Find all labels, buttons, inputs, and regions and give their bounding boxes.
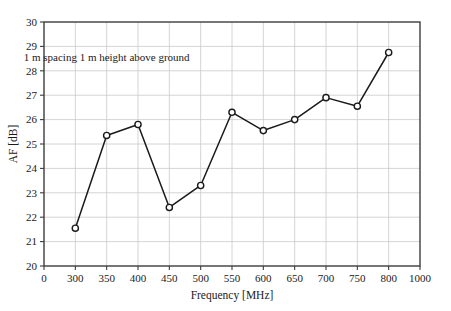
chart-container: 2021222324252627282930 03003504004505005… xyxy=(0,0,451,311)
x-tick-label: 400 xyxy=(130,272,147,284)
x-tick-label: 1000 xyxy=(409,272,432,284)
x-tick-label: 600 xyxy=(255,272,272,284)
y-axis-title: AF [dB] xyxy=(7,125,19,164)
x-axis-title: Frequency [MHz] xyxy=(191,289,274,302)
data-point xyxy=(135,121,141,127)
y-tick-label: 24 xyxy=(26,162,38,174)
data-point xyxy=(72,225,78,231)
data-point xyxy=(260,127,266,133)
x-tick-label: 650 xyxy=(286,272,303,284)
data-point xyxy=(229,109,235,115)
x-tick-label: 450 xyxy=(161,272,178,284)
x-tick-label: 550 xyxy=(224,272,241,284)
data-point xyxy=(323,95,329,101)
x-tick-label: 350 xyxy=(98,272,115,284)
y-tick-label: 27 xyxy=(26,89,38,101)
y-tick-label: 28 xyxy=(26,65,38,77)
data-point xyxy=(166,204,172,210)
y-tick-label: 26 xyxy=(26,113,38,125)
data-point xyxy=(198,182,204,188)
annotation-label: 1 m spacing 1 m height above ground xyxy=(24,51,190,63)
line-chart: 2021222324252627282930 03003504004505005… xyxy=(0,0,451,311)
data-point xyxy=(104,132,110,138)
y-tick-label: 25 xyxy=(26,138,38,150)
x-tick-label: 750 xyxy=(349,272,366,284)
chart-annotation: 1 m spacing 1 m height above ground xyxy=(24,51,190,63)
y-tick-label: 23 xyxy=(26,187,38,199)
y-tick-label: 30 xyxy=(26,16,38,28)
y-tick-label: 20 xyxy=(26,260,38,272)
x-tick-label: 700 xyxy=(318,272,335,284)
x-tick-label: 0 xyxy=(41,272,47,284)
y-tick-label: 21 xyxy=(26,235,37,247)
x-tick-label: 300 xyxy=(67,272,84,284)
data-point xyxy=(354,103,360,109)
y-tick-label: 22 xyxy=(26,211,37,223)
data-point xyxy=(386,49,392,55)
x-tick-label: 800 xyxy=(380,272,397,284)
data-point xyxy=(292,117,298,123)
x-tick-label: 500 xyxy=(192,272,209,284)
